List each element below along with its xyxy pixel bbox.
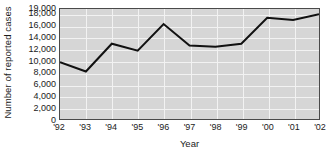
- data-series-line: [60, 9, 319, 119]
- x-tick-label: '01: [288, 122, 300, 132]
- x-tick-label: '96: [158, 122, 170, 132]
- x-tick-label: '95: [131, 122, 143, 132]
- y-tick-label: 12,000: [28, 45, 56, 54]
- y-tick-label: 6,000: [33, 80, 56, 89]
- x-tick-label: '02: [314, 122, 326, 132]
- y-tick-label: 8,000: [33, 68, 56, 77]
- y-tick-label: 2,000: [33, 104, 56, 113]
- y-tick-label: 18,000: [28, 9, 56, 18]
- y-axis-tick-labels: 19,00018,00016,00014,00012,00010,0008,00…: [14, 0, 58, 128]
- y-tick-label: 14,000: [28, 33, 56, 42]
- y-tick-label: 16,000: [28, 21, 56, 30]
- plot-area: [59, 8, 320, 120]
- y-tick-label: 10,000: [28, 57, 56, 66]
- y-axis-title-label: Number of reported cases: [2, 6, 13, 118]
- y-tick-label: 4,000: [33, 92, 56, 101]
- x-tick-label: '93: [79, 122, 91, 132]
- x-tick-label: '99: [236, 122, 248, 132]
- y-axis-title: Number of reported cases: [0, 0, 14, 124]
- x-tick-label: '97: [184, 122, 196, 132]
- x-tick-label: '92: [53, 122, 65, 132]
- line-chart-figure: Number of reported cases 19,00018,00016,…: [0, 0, 333, 159]
- x-axis-title: Year: [59, 138, 320, 149]
- x-tick-label: '98: [210, 122, 222, 132]
- series-polyline: [60, 14, 319, 71]
- x-axis-tick-labels: '92'93'94'95'96'97'98'99'00'01'02: [59, 122, 320, 136]
- x-tick-label: '94: [105, 122, 117, 132]
- x-tick-label: '00: [262, 122, 274, 132]
